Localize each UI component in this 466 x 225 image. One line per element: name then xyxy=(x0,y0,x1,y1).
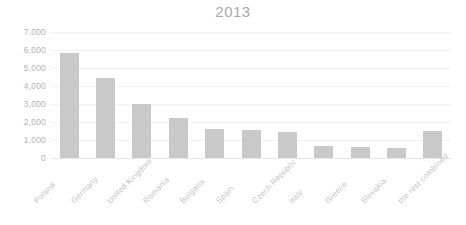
x-axis-tick-label-text: Greece xyxy=(323,180,349,206)
x-axis-tick-label: Slovakia xyxy=(360,176,389,205)
bar[interactable] xyxy=(314,146,333,157)
y-axis-tick-label: 1,000 xyxy=(0,135,46,145)
y-axis-tick-label: 0 xyxy=(0,153,46,163)
y-axis: 01,0002,0003,0004,0005,0006,0007,000 xyxy=(0,32,46,158)
bar[interactable] xyxy=(387,148,406,158)
bar[interactable] xyxy=(423,131,442,158)
x-axis-tick-label-text: the rest combined xyxy=(396,152,450,206)
x-axis-tick-label-text: Spain xyxy=(214,184,236,206)
bar[interactable] xyxy=(132,104,151,157)
y-axis-tick-label: 3,000 xyxy=(0,99,46,109)
gridline xyxy=(51,32,451,33)
bar[interactable] xyxy=(205,129,224,158)
x-axis-tick-label: Poland xyxy=(32,181,57,206)
gridline xyxy=(51,68,451,69)
bar[interactable] xyxy=(278,132,297,158)
x-axis-tick-label: the rest combined xyxy=(396,152,450,206)
x-axis-tick-label: Bulgaria xyxy=(178,177,206,205)
bar[interactable] xyxy=(60,53,79,157)
chart-title: 2013 xyxy=(0,3,466,20)
y-axis-tick-label: 2,000 xyxy=(0,117,46,127)
x-axis-tick-label-text: Slovakia xyxy=(360,176,389,205)
x-axis-tick-label: Italy xyxy=(287,188,304,205)
y-axis-tick-label: 6,000 xyxy=(0,45,46,55)
gridline xyxy=(51,50,451,51)
x-axis-tick-label-text: Romania xyxy=(141,175,171,205)
bar[interactable] xyxy=(169,118,188,158)
x-axis: PolandGermanyUnited KingdomRomaniaBulgar… xyxy=(51,158,466,225)
x-axis-tick-label-text: Bulgaria xyxy=(178,177,206,205)
y-axis-tick-label: 4,000 xyxy=(0,81,46,91)
bar[interactable] xyxy=(351,147,370,157)
x-axis-tick-label-text: Poland xyxy=(32,181,57,206)
x-axis-tick-label: Greece xyxy=(323,180,349,206)
plot-area xyxy=(51,32,451,158)
bar[interactable] xyxy=(96,78,115,157)
x-axis-tick-label: Romania xyxy=(141,175,171,205)
x-axis-tick-label: Germany xyxy=(69,175,100,206)
x-axis-tick-label: Spain xyxy=(214,184,236,206)
y-axis-tick-label: 5,000 xyxy=(0,63,46,73)
y-axis-tick-label: 7,000 xyxy=(0,27,46,37)
bar-chart: 2013 01,0002,0003,0004,0005,0006,0007,00… xyxy=(0,0,466,225)
x-axis-tick-label-text: Germany xyxy=(69,175,100,206)
x-axis-tick-label-text: Italy xyxy=(287,188,304,205)
bar[interactable] xyxy=(242,130,261,158)
